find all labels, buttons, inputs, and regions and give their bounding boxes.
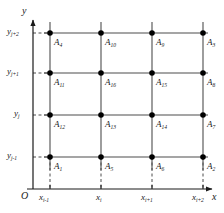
grid-lines-vertical: [50, 22, 203, 170]
node-dot-r3c0: [47, 154, 53, 160]
node-label-a15: A15: [156, 78, 167, 87]
node-dot-r3c2: [149, 154, 155, 160]
node-sub-3: 3: [213, 42, 216, 48]
node-label-a2: A2: [207, 162, 215, 171]
node-base-0: A: [54, 37, 60, 47]
node-sub-5: 16: [111, 82, 116, 88]
y-tick-label-1: yj+1: [7, 67, 19, 76]
node-sub-14: 6: [162, 166, 165, 172]
node-sub-12: 1: [60, 166, 63, 172]
x-tick-label-0: xi-1: [39, 193, 49, 202]
y-tick-label-0: yj+2: [7, 27, 19, 36]
node-base-9: A: [105, 119, 111, 129]
node-label-a6: A6: [156, 162, 164, 171]
grid-nodes: [47, 30, 206, 160]
node-dot-r2c2: [149, 112, 155, 118]
node-dot-r2c3: [200, 112, 206, 118]
node-dot-r0c0: [47, 30, 53, 36]
x-tick-label-2: xi+1: [141, 193, 153, 202]
node-base-1: A: [105, 37, 111, 47]
node-sub-2: 9: [162, 42, 165, 48]
x-tick-sub-3: i+2: [196, 197, 204, 203]
node-label-a16: A16: [105, 78, 116, 87]
node-label-a4: A4: [54, 38, 62, 47]
node-base-10: A: [156, 119, 162, 129]
grid-diagram-figure: y x O yj+2 yj+1 yj yj-1 xi-1 xi xi+1 xi+…: [0, 0, 224, 213]
x-tick-sub-1: i: [100, 197, 101, 203]
x-tick-label-1: xi: [96, 193, 101, 202]
node-dot-r1c2: [149, 70, 155, 76]
node-dot-r3c3: [200, 154, 206, 160]
y-tick-sub-1: j+1: [11, 71, 19, 77]
node-label-a8: A8: [207, 78, 215, 87]
node-label-a3: A3: [207, 38, 215, 47]
x-tick-label-3: xi+2: [192, 193, 204, 202]
node-dot-r1c0: [47, 70, 53, 76]
node-dot-r2c1: [98, 112, 104, 118]
node-base-4: A: [54, 77, 60, 87]
node-sub-13: 5: [111, 166, 114, 172]
x-tick-sub-0: i-1: [43, 197, 49, 203]
y-tick-sub-3: j-1: [11, 155, 17, 161]
node-base-5: A: [105, 77, 111, 87]
node-base-7: A: [207, 77, 213, 87]
node-dot-r1c3: [200, 70, 206, 76]
y-tick-sub-2: j: [18, 113, 19, 119]
node-sub-4: 11: [60, 82, 65, 88]
y-axis-label: y: [22, 6, 26, 16]
node-label-a13: A13: [105, 120, 116, 129]
x-tick-sub-2: i+1: [145, 197, 153, 203]
node-base-8: A: [54, 119, 60, 129]
node-base-3: A: [207, 37, 213, 47]
node-label-a5: A5: [105, 162, 113, 171]
node-sub-15: 2: [213, 166, 216, 172]
node-dot-r0c3: [200, 30, 206, 36]
node-label-a9: A9: [156, 38, 164, 47]
node-base-12: A: [54, 161, 60, 171]
node-label-a11: A11: [54, 78, 64, 87]
node-sub-10: 14: [162, 124, 167, 130]
origin-label: O: [21, 191, 28, 201]
node-base-11: A: [207, 119, 213, 129]
y-tick-sub-0: j+2: [11, 31, 19, 37]
node-sub-8: 12: [60, 124, 65, 130]
grid-lines-horizontal: [44, 33, 208, 157]
node-dot-r3c1: [98, 154, 104, 160]
node-dot-r1c1: [98, 70, 104, 76]
node-label-a10: A10: [105, 38, 116, 47]
y-tick-label-2: yj: [14, 109, 19, 118]
node-base-15: A: [207, 161, 213, 171]
node-dot-r0c2: [149, 30, 155, 36]
y-tick-label-3: yj-1: [7, 151, 17, 160]
node-dot-r2c0: [47, 112, 53, 118]
node-sub-11: 7: [213, 124, 216, 130]
node-sub-1: 10: [111, 42, 116, 48]
node-base-6: A: [156, 77, 162, 87]
node-label-a7: A7: [207, 120, 215, 129]
node-label-a14: A14: [156, 120, 167, 129]
node-sub-9: 13: [111, 124, 116, 130]
dashed-connectors-y: [33, 33, 50, 157]
node-label-a1: A1: [54, 162, 62, 171]
node-sub-7: 8: [213, 82, 216, 88]
dashed-connectors-x: [50, 157, 203, 189]
node-label-a12: A12: [54, 120, 65, 129]
diagram-canvas: [0, 0, 224, 213]
node-base-2: A: [156, 37, 162, 47]
x-axis-label: x: [212, 192, 216, 202]
node-sub-6: 15: [162, 82, 167, 88]
node-sub-0: 4: [60, 42, 63, 48]
node-base-14: A: [156, 161, 162, 171]
node-dot-r0c1: [98, 30, 104, 36]
node-base-13: A: [105, 161, 111, 171]
